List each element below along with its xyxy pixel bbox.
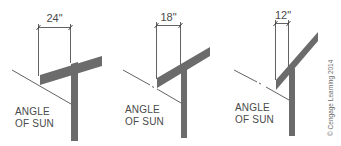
- sun-angle-label-line2: OF SUN: [235, 114, 274, 125]
- sun-angle-line: [123, 70, 150, 85]
- panel-18-inch: 18" ANGLE OF SUN: [123, 11, 210, 139]
- sun-angle-line-dash: [259, 83, 261, 84]
- sun-angle-label-line2: OF SUN: [15, 118, 54, 129]
- post: [289, 68, 295, 136]
- copyright-credit: © Cengage Learning 2014: [327, 59, 335, 136]
- sun-angle-line-dash: [152, 87, 154, 88]
- rafter-beam: [276, 32, 318, 90]
- sun-angle-label-line1: ANGLE: [235, 102, 270, 113]
- sun-angle-label-line1: ANGLE: [15, 106, 50, 117]
- overhang-dimension-label: 24": [46, 12, 62, 24]
- post: [181, 66, 187, 138]
- panel-12-inch: 12" ANGLE OF SUN: [234, 9, 318, 137]
- sun-angle-line-lower: [157, 89, 181, 103]
- roof-overhang-sun-angle-diagram: 24" ANGLE OF SUN 18" ANGLE OF SUN: [0, 0, 341, 146]
- sun-angle-label-line1: ANGLE: [125, 104, 160, 115]
- sun-angle-line-lower: [266, 87, 289, 100]
- sun-angle-label-line2: OF SUN: [125, 116, 164, 127]
- overhang-dimension-label: 12": [275, 9, 291, 21]
- overhang-dimension-label: 18": [160, 11, 176, 23]
- sun-angle-line: [234, 70, 257, 82]
- panel-24-inch: 24" ANGLE OF SUN: [12, 12, 102, 141]
